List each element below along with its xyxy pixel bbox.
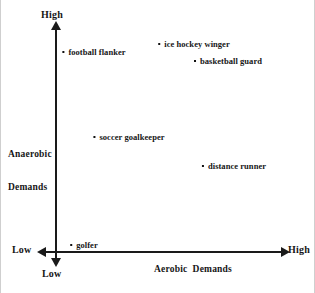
y-axis-title-line-2: Demands: [8, 182, 52, 193]
data-point-marker-icon: [194, 60, 196, 62]
x-axis-title: Aerobic Demands: [108, 264, 278, 274]
y-axis-up-arrow-icon: [51, 21, 61, 30]
point-basketball-guard: basketball guard: [194, 56, 262, 66]
data-point-marker-icon: [70, 244, 72, 246]
y-axis-line: [55, 28, 57, 260]
data-point-label: soccer goalkeeper: [99, 132, 164, 142]
data-point-marker-icon: [158, 43, 160, 45]
point-distance-runner: distance runner: [202, 161, 266, 171]
data-point-label: football flanker: [68, 47, 125, 57]
data-point-marker-icon: [62, 51, 64, 53]
data-point-label: basketball guard: [200, 56, 262, 66]
data-point-label: distance runner: [208, 161, 266, 171]
x-axis-line: [45, 251, 285, 253]
y-axis-title-line-1: Anaerobic: [8, 149, 52, 160]
x-axis-left-arrow-icon: [37, 247, 46, 257]
point-golfer: golfer: [70, 240, 98, 250]
x-axis-low-label: Low: [12, 244, 32, 255]
data-point-label: golfer: [76, 240, 98, 250]
sports-demands-scatter-chart: High Low Low High Anaerobic Demands Aero…: [0, 0, 315, 293]
y-axis-title: Anaerobic Demands: [8, 127, 52, 215]
data-point-marker-icon: [93, 136, 95, 138]
y-axis-high-label: High: [41, 9, 63, 20]
y-axis-down-arrow-icon: [51, 258, 61, 267]
point-ice-hockey-winger: ice hockey winger: [158, 39, 230, 49]
point-soccer-goalkeeper: soccer goalkeeper: [93, 132, 164, 142]
data-point-label: ice hockey winger: [164, 39, 230, 49]
y-axis-low-label: Low: [42, 268, 62, 279]
point-football-flanker: football flanker: [62, 47, 125, 57]
x-axis-high-label: High: [288, 244, 310, 255]
data-point-marker-icon: [202, 165, 204, 167]
